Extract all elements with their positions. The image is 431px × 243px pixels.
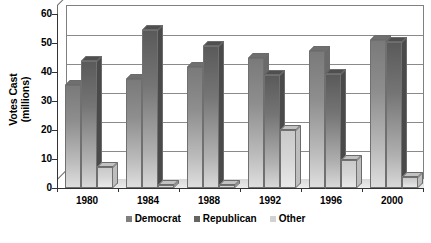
y-tick-20	[52, 130, 58, 131]
bar-1980-other[interactable]	[97, 167, 113, 188]
legend-item-democrat[interactable]: Democrat	[126, 213, 181, 224]
bar-group-1988	[185, 14, 246, 188]
y-tick-label-40: 40	[12, 67, 52, 77]
legend-label-democrat: Democrat	[135, 213, 181, 224]
bar-1996-democrat[interactable]	[309, 51, 325, 189]
y-tick-10	[52, 159, 58, 160]
y-tick-40	[52, 72, 58, 73]
bar-1992-republican[interactable]	[264, 75, 280, 188]
x-tick-label-1988: 1988	[174, 195, 244, 206]
bar-2000-other[interactable]	[402, 177, 418, 188]
y-tick-30	[52, 101, 58, 102]
bar-1996-other[interactable]	[341, 160, 357, 188]
legend-label-republican: Republican	[203, 213, 257, 224]
bar-group-1980	[63, 14, 124, 188]
x-tick-6	[423, 188, 424, 192]
bar-group-1984	[124, 14, 185, 188]
bar-chart: Votes Cast (millions) 60 50 40 30	[0, 0, 431, 243]
x-tick-label-1980: 1980	[52, 195, 122, 206]
bar-1984-other[interactable]	[158, 185, 174, 188]
y-tick-60	[52, 14, 58, 15]
plot-area: 60 50 40 30 20 10 0	[0, 0, 431, 243]
y-tick-label-20: 20	[12, 125, 52, 135]
x-tick-label-2000: 2000	[357, 195, 427, 206]
legend-label-other: Other	[279, 213, 306, 224]
bar-1992-other[interactable]	[280, 130, 296, 188]
bar-1988-democrat[interactable]	[187, 67, 203, 188]
y-tick-label-10: 10	[12, 154, 52, 164]
bar-1988-other[interactable]	[219, 185, 235, 188]
y-tick-50	[52, 43, 58, 44]
bar-2000-republican[interactable]	[386, 42, 402, 189]
y-tick-label-50: 50	[12, 38, 52, 48]
x-tick-0	[57, 188, 58, 192]
legend-item-other[interactable]: Other	[270, 213, 306, 224]
legend-swatch-icon-republican	[194, 216, 200, 222]
bar-1992-democrat[interactable]	[248, 58, 264, 188]
bar-group-2000	[368, 14, 429, 188]
x-tick-label-1984: 1984	[113, 195, 183, 206]
x-tick-label-1992: 1992	[235, 195, 305, 206]
bar-2000-democrat[interactable]	[370, 40, 386, 188]
y-tick-label-0: 0	[12, 183, 52, 193]
bar-1980-republican[interactable]	[81, 61, 97, 188]
y-tick-label-60: 60	[12, 9, 52, 19]
x-tick-4	[301, 188, 302, 192]
bar-group-1996	[307, 14, 368, 188]
legend-swatch-icon-other	[270, 216, 276, 222]
bar-group-1992	[246, 14, 307, 188]
x-tick-2	[179, 188, 180, 192]
x-tick-label-1996: 1996	[296, 195, 366, 206]
bar-1996-republican[interactable]	[325, 74, 341, 188]
bar-1984-republican[interactable]	[142, 30, 158, 188]
x-tick-3	[240, 188, 241, 192]
x-tick-1	[118, 188, 119, 192]
chart-legend: Democrat Republican Other	[0, 213, 431, 224]
bar-1984-democrat[interactable]	[126, 79, 142, 188]
y-tick-label-30: 30	[12, 96, 52, 106]
legend-swatch-icon-democrat	[126, 216, 132, 222]
bar-1988-republican[interactable]	[203, 46, 219, 188]
x-tick-5	[362, 188, 363, 192]
legend-item-republican[interactable]: Republican	[194, 213, 257, 224]
bar-1980-democrat[interactable]	[65, 85, 81, 188]
